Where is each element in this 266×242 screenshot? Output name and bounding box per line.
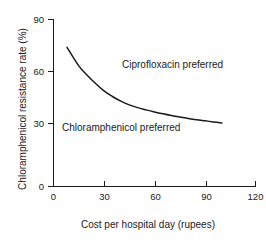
x-tick-label-60: 60 bbox=[141, 192, 170, 202]
y-axis-ticks bbox=[48, 20, 54, 187]
annotation-ciprofloxacin-preferred: Ciprofloxacin preferred bbox=[122, 60, 223, 70]
x-tick-label-120: 120 bbox=[241, 192, 266, 202]
x-tick-label-90: 90 bbox=[192, 192, 221, 202]
chart-figure: 90 60 30 0 0 30 60 90 120 Chloramphenico… bbox=[0, 0, 266, 242]
x-axis-title: Cost per hospital day (rupees) bbox=[40, 220, 256, 230]
x-axis-ticks bbox=[54, 181, 256, 187]
x-tick-label-30: 30 bbox=[90, 192, 119, 202]
y-axis-title: Chloramphenicol resistance rate (%) bbox=[18, 24, 28, 194]
x-tick-label-0: 0 bbox=[39, 192, 68, 202]
annotation-chloramphenicol-preferred: Chloramphenicol preferred bbox=[62, 123, 180, 133]
